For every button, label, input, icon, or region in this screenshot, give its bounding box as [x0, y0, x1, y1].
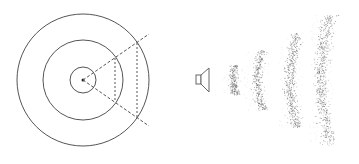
wavefront-2 [245, 50, 269, 111]
wavefront-4 [309, 15, 339, 146]
speaker-icon [196, 68, 209, 92]
concentric-circles-figure [17, 14, 149, 146]
sound-wavefronts [222, 15, 339, 146]
diagram [0, 0, 359, 164]
wavefront-3 [279, 33, 303, 128]
wavefront-1 [222, 65, 246, 95]
